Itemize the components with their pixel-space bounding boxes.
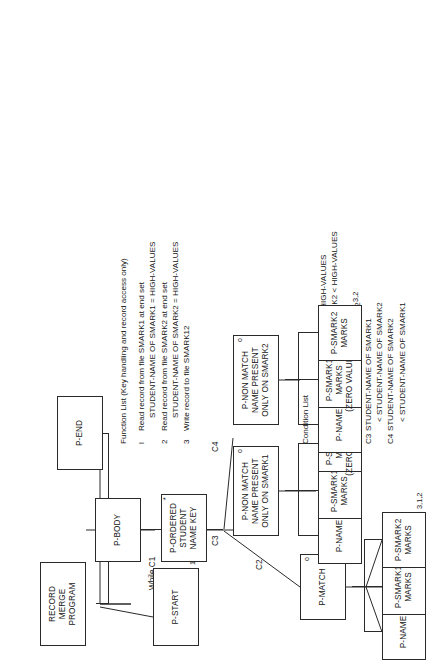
node-line: MARKS [340,318,350,348]
edge-match-c3 [364,539,382,540]
node-line: P-ORDERED [169,503,179,553]
edge-nm1-c2 [298,490,318,491]
condition-list-item: C4STUDENT-NAME OF SMARK2 [385,231,396,444]
rotated-diagram-wrapper: RECORD MERGE PROGRAM P-START 1,2 P-BODY … [0,0,436,666]
node-line: STUDENT [179,508,189,547]
node-line: NAME PRESENT [251,347,261,413]
condition-list-item-id: C4 [385,431,396,444]
node-line: P-BODY [113,514,123,546]
node-line: P-END [75,420,85,446]
edge-label-c4: C4 [211,442,220,452]
node-line: P-NAME [335,520,345,552]
node-p-ordered-student-name-key[interactable]: * P-ORDERED STUDENT NAME KEY [161,494,207,562]
edge-ordered-down [207,529,223,530]
node-line: NAME PRESENT [251,458,261,524]
condition-list-item-id: C3 [363,431,374,444]
node-line: ONLY ON SMARK2 [261,343,271,416]
function-list-item-cont: STUDENT-NAME OF SMARK2 = HIGH-VALUES [170,242,181,444]
condition-list-title: Condition List [300,231,311,444]
edge-match-c2 [364,586,382,587]
node-line: MARKS [404,572,414,602]
node-line: P-SMARK2 [330,312,340,355]
node-line: MARKS [404,525,414,555]
node-line: P-SMARK1 [394,566,404,609]
node-p-body[interactable]: P-BODY [95,498,141,562]
edge-match-c1 [364,631,382,632]
node-line: P-NAME [335,409,345,441]
node-match-p-smark2-marks[interactable]: P-SMARK2 MARKS [382,512,426,568]
function-list-item: 3Write record to file SMARK12 [181,242,192,444]
function-ref-match-smark2: 3,1,2 [415,493,424,509]
selection-circle-icon: o [236,449,244,453]
edge-nm1-c1 [298,535,318,536]
function-list-title: Function List (Key handling and record a… [118,242,129,444]
node-p-end[interactable]: P-END [57,396,103,470]
node-line: P-SMARK2 [394,519,404,562]
node-line: P-NON MATCH [241,351,251,409]
node-line: P-START [171,590,181,625]
edge-label-c2: C2 [255,560,264,570]
function-list-item: lRead record from file SMARK1 at end set [136,242,147,444]
condition-list-item-text: STUDENT-NAME OF SMARK1 [364,318,373,431]
node-line: RECORD [48,586,58,622]
condition-list-item: C3STUDENT-NAME OF SMARK1 [363,231,374,444]
node-line: ONLY ON SMARK1 [261,454,271,527]
node-p-non-match-only-smark1[interactable]: o P-NON MATCH NAME PRESENT ONLY ON SMARK… [233,446,279,536]
selection-circle-icon: o [303,557,311,561]
function-list-item-number: l [136,431,147,444]
selection-circle-icon: o [236,338,244,342]
node-line: NAME KEY [189,506,199,549]
condition-list-item-cont: < STUDENT-NAME OF SMARK2 [374,231,385,444]
function-list-item-number: 2 [159,431,170,444]
node-line: P-MATCH [318,568,328,605]
function-list: Function List (Key handling and record a… [118,242,192,444]
node-nm2-p-smark2-marks[interactable]: P-SMARK2 MARKS [318,305,362,361]
function-list-item-text: Read record from file SMARK1 at end set [137,282,146,431]
node-line: MARKS [335,365,345,395]
function-list-item-text: Write record to file SMARK12 [182,325,191,431]
node-line: MARKS [340,476,350,506]
diagram-canvas: RECORD MERGE PROGRAM P-START 1,2 P-BODY … [0,0,436,666]
function-list-item: 2Read record from file SMARK2 at end set [159,242,170,444]
edge-nm2-down [285,379,298,380]
iteration-asterisk-icon: * [162,497,170,500]
function-list-item-number: 3 [181,431,192,444]
node-p-start[interactable]: P-START [153,568,199,646]
function-list-item-text: Read record from file SMARK2 at end set [160,282,169,431]
edge-body-to-ordered [141,529,161,530]
node-line: P-SMARK1 [325,359,335,402]
edge-root-up [96,603,108,604]
condition-list-item-text: STUDENT-NAME OF SMARK2 [386,318,395,431]
edge-label-c3: C3 [211,536,220,546]
edge-nm1-down [285,490,298,491]
node-line: MERGE [58,589,68,620]
function-list-item-cont: STUDENT-NAME OF SMARK1 = HIGH-VALUES [147,242,158,444]
node-line: P-SMARK1 [330,470,340,513]
node-line: P-NON MATCH [241,462,251,520]
node-line: PROGRAM [68,583,78,626]
condition-list-item-cont: < STUDENT-NAME OF SMARK1 [397,231,408,444]
edge-match-down [352,586,364,587]
node-line: P-NAME [399,616,409,648]
node-record-merge-program[interactable]: RECORD MERGE PROGRAM [40,562,86,646]
node-p-non-match-only-smark2[interactable]: o P-NON MATCH NAME PRESENT ONLY ON SMARK… [233,335,279,425]
